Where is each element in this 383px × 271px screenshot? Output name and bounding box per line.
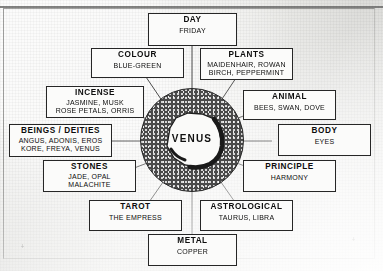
center-label: VENUS xyxy=(140,133,244,144)
node-colour[interactable]: COLOUR BLUE-GREEN xyxy=(91,48,184,78)
center-venus-symbol: VENUS xyxy=(140,88,244,192)
node-day-value: FRIDAY xyxy=(152,27,233,34)
scan-speck-2 xyxy=(22,244,23,248)
node-colour-value: BLUE-GREEN xyxy=(95,62,180,69)
node-principle[interactable]: PRINCIPLE HARMONY xyxy=(243,160,336,192)
node-stones-value-1: JADE, OPAL xyxy=(47,173,132,180)
node-day-title: DAY xyxy=(152,16,233,25)
node-body[interactable]: BODY EYES xyxy=(278,124,371,156)
node-astrological-value: TAURUS, LIBRA xyxy=(204,214,289,221)
node-principle-title: PRINCIPLE xyxy=(247,163,332,172)
node-incense[interactable]: INCENSE JASMINE, MUSK ROSE PETALS, ORRIS xyxy=(46,86,144,118)
node-colour-title: COLOUR xyxy=(95,51,180,60)
node-beings-title: BEINGS / DEITIES xyxy=(13,127,108,136)
node-plants-title: PLANTS xyxy=(204,51,289,60)
node-incense-value-2: ROSE PETALS, ORRIS xyxy=(50,107,140,114)
node-metal-title: METAL xyxy=(152,237,233,246)
node-beings-deities[interactable]: BEINGS / DEITIES ANGUS, ADONIS, EROS KOR… xyxy=(9,124,112,157)
node-animal[interactable]: ANIMAL BEES, SWAN, DOVE xyxy=(243,90,336,120)
node-body-value: EYES xyxy=(282,138,367,145)
node-incense-value-1: JASMINE, MUSK xyxy=(50,99,140,106)
node-stones-title: STONES xyxy=(47,163,132,172)
node-plants-value-2: BIRCH, PEPPERMINT xyxy=(204,69,289,76)
diagram-page: VENUS DAY FRIDAY COLOUR BLUE-GREEN PLANT… xyxy=(0,0,383,271)
node-animal-title: ANIMAL xyxy=(247,93,332,102)
node-astrological-title: ASTROLOGICAL xyxy=(204,203,289,212)
node-body-title: BODY xyxy=(282,127,367,136)
node-tarot[interactable]: TAROT THE EMPRESS xyxy=(89,200,182,231)
node-metal[interactable]: METAL COPPER xyxy=(148,234,237,266)
node-beings-value-1: ANGUS, ADONIS, EROS xyxy=(13,137,108,144)
node-principle-value: HARMONY xyxy=(247,174,332,181)
diagram-stage: VENUS DAY FRIDAY COLOUR BLUE-GREEN PLANT… xyxy=(0,0,383,271)
node-animal-value: BEES, SWAN, DOVE xyxy=(247,104,332,111)
node-tarot-value: THE EMPRESS xyxy=(93,214,178,221)
node-day[interactable]: DAY FRIDAY xyxy=(148,13,237,46)
scan-speck-4 xyxy=(353,237,354,241)
node-incense-title: INCENSE xyxy=(50,89,140,98)
node-beings-value-2: KORE, FREYA, VENUS xyxy=(13,145,108,152)
node-stones[interactable]: STONES JADE, OPAL MALACHITE xyxy=(43,160,136,192)
node-plants-value-1: MAIDENHAIR, ROWAN xyxy=(204,61,289,68)
node-metal-value: COPPER xyxy=(152,248,233,255)
node-astrological[interactable]: ASTROLOGICAL TAURUS, LIBRA xyxy=(200,200,293,231)
node-tarot-title: TAROT xyxy=(93,203,178,212)
node-stones-value-2: MALACHITE xyxy=(47,181,132,188)
node-plants[interactable]: PLANTS MAIDENHAIR, ROWAN BIRCH, PEPPERMI… xyxy=(200,48,293,80)
